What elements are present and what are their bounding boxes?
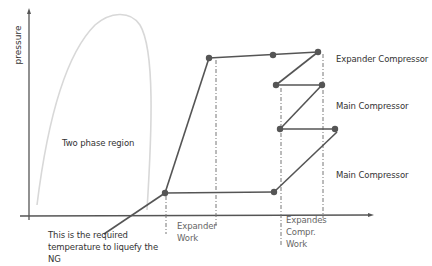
expander-compr-work-line1: Expandes (286, 214, 327, 226)
y-axis-label: pressure (13, 25, 23, 65)
expander-compr-work-label: Expandes Compr. Work (286, 214, 327, 250)
expander-compr-work-line3: Work (286, 238, 327, 250)
stage-label-main-compressor-lower: Main Compressor (336, 170, 408, 180)
liquefaction-note: This is the required temperature to liqu… (48, 229, 168, 265)
stage-label-expander-compressor: Expander Compressor (336, 54, 428, 64)
expander-work-line2: Work (177, 232, 217, 244)
x-axis-arrow-icon (368, 213, 374, 217)
stage-label-main-compressor-upper: Main Compressor (336, 101, 408, 111)
two-phase-region-label: Two phase region (62, 138, 134, 148)
expander-work-line1: Expander (177, 220, 217, 232)
two-phase-dome (37, 14, 151, 210)
expander-compr-work-line2: Compr. (286, 226, 327, 238)
process-path (104, 52, 337, 234)
y-axis-arrow-icon (27, 8, 31, 14)
expander-work-label: Expander Work (177, 220, 217, 244)
